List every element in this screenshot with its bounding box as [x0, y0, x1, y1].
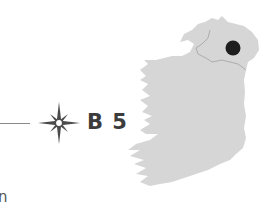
ireland-map: [0, 0, 278, 211]
ireland-landmass: [128, 16, 259, 186]
location-dot-icon: [226, 41, 241, 56]
